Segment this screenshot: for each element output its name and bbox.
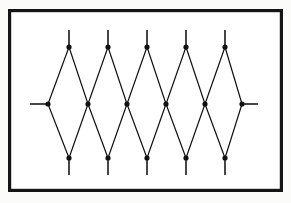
diamond-lattice-figure (0, 0, 291, 203)
lattice-node-m2 (124, 101, 129, 106)
lattice-node-b3 (144, 155, 149, 160)
lattice-node-m4 (202, 101, 207, 106)
lattice-node-m1 (85, 101, 90, 106)
lattice-node-t3 (144, 44, 149, 49)
lattice-node-t5 (222, 44, 227, 49)
lattice-node-m3 (163, 101, 168, 106)
lattice-node-t2 (105, 44, 110, 49)
lattice-node-t4 (183, 44, 188, 49)
lattice-node-m0 (45, 101, 50, 106)
figure-root (0, 0, 291, 203)
lattice-node-b5 (222, 155, 227, 160)
lattice-node-b4 (183, 155, 188, 160)
lattice-node-m5 (239, 101, 244, 106)
lattice-node-b1 (66, 155, 71, 160)
lattice-node-b2 (105, 155, 110, 160)
lattice-node-t1 (66, 44, 71, 49)
